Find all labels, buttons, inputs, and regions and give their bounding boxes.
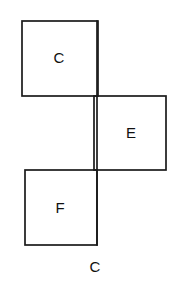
square-c-label: C — [54, 49, 65, 66]
square-f-label: F — [55, 199, 64, 216]
figure-canvas: C E F C — [0, 0, 181, 289]
geometry-figure: C E F C — [0, 0, 181, 289]
square-e-label: E — [126, 124, 136, 141]
figure-caption-label: C — [90, 258, 101, 275]
